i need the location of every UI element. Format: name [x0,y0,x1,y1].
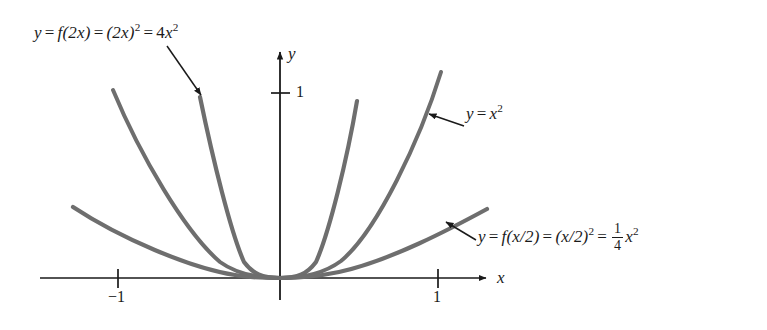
narrow-exponent-3: 2 [173,21,179,33]
wide-exponent-3: 2 [633,225,639,237]
x-axis-label: x [497,268,505,288]
annotation-arrow-narrow [167,46,201,95]
wide-eq2: = [540,227,556,246]
equation-label-standard-parabola: y=x2 [466,105,503,122]
annotation-arrow-standard [429,114,464,126]
narrow-eq3: = [140,23,156,42]
narrow-coefficient: 4 [156,23,165,42]
x-tick-label-neg1: −1 [108,288,125,306]
narrow-eq2: = [91,23,107,42]
curve-y-equals-x-squared [113,72,441,278]
wide-eq3: = [594,227,610,246]
curve-y-equals-4x-squared [200,97,357,278]
plot-canvas [0,0,767,330]
standard-exponent: 2 [497,102,503,114]
x-tick-label-pos1: 1 [433,288,441,306]
narrow-arg1: (2x) [62,23,90,42]
narrow-y: y [34,23,42,42]
fraction-numerator: 1 [612,222,623,237]
equation-label-narrow-parabola: y=f(2x)=(2x)2=4x2 [34,24,179,41]
narrow-variable: x [165,23,173,42]
wide-arg1: (x/2) [506,227,539,246]
fraction-one-quarter: 14 [612,222,623,253]
wide-variable: x [625,227,633,246]
narrow-eq1: = [42,23,58,42]
y-tick-label-1: 1 [296,83,304,101]
wide-arg2: (x/2) [555,227,588,246]
wide-eq1: = [486,227,502,246]
standard-y: y [466,104,474,123]
y-axis-label: y [288,44,296,64]
wide-y: y [478,227,486,246]
parabola-transformation-figure: y=f(2x)=(2x)2=4x2 y=x2 y=f(x/2)=(x/2)2=1… [0,0,767,330]
standard-eq: = [474,104,490,123]
equation-label-wide-parabola: y=f(x/2)=(x/2)2=14x2 [478,222,639,253]
narrow-arg2: (2x) [106,23,134,42]
fraction-denominator: 4 [612,239,623,254]
